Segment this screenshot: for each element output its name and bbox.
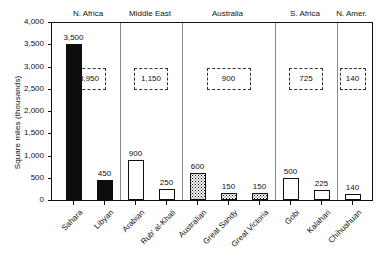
region-divider xyxy=(337,23,338,200)
y-tick-label: 2,500 xyxy=(16,85,44,93)
bar-value-label: 140 xyxy=(333,184,373,192)
x-tick-mark xyxy=(73,201,74,205)
region-total-australia: 900 xyxy=(207,68,251,90)
bar-sahara xyxy=(66,44,82,200)
x-tick-mark xyxy=(197,201,198,205)
region-total-n-amer: 140 xyxy=(340,68,366,90)
y-tick-label: 4,000 xyxy=(16,18,44,26)
bar-value-label: 600 xyxy=(178,163,218,171)
bar-rub-al-khali xyxy=(159,189,175,200)
y-tick-label: 1,500 xyxy=(16,129,44,137)
bar-kalahari xyxy=(314,190,330,200)
bar-great-victoria xyxy=(252,193,268,200)
x-tick-mark xyxy=(104,201,105,205)
y-tick-label: 500 xyxy=(16,174,44,182)
bar-value-label: 150 xyxy=(240,183,280,191)
bar-arabian xyxy=(128,160,144,200)
x-tick-mark xyxy=(259,201,260,205)
plot-area: 3,9501,1509007251403,5004509002506001501… xyxy=(51,22,373,201)
bar-value-label: 450 xyxy=(85,170,125,178)
y-tick-label: 3,000 xyxy=(16,63,44,71)
bar-libyan xyxy=(97,180,113,200)
bar-chihuahuan xyxy=(345,194,361,200)
bar-gobi xyxy=(283,178,299,200)
bar-value-label: 250 xyxy=(147,179,187,187)
bar-value-label: 900 xyxy=(116,150,156,158)
x-tick-mark xyxy=(135,201,136,205)
bar-australian xyxy=(190,173,206,200)
y-tick-label: 2,000 xyxy=(16,107,44,115)
y-tick-label: 0 xyxy=(16,196,44,204)
y-axis-tick-labels: 05001,0001,5002,0002,5003,0003,5004,000 xyxy=(14,0,44,258)
bar-value-label: 3,500 xyxy=(54,34,94,42)
region-divider xyxy=(182,23,183,200)
x-tick-mark xyxy=(166,201,167,205)
bar-chart: Square miles (thousands) 05001,0001,5002… xyxy=(0,0,377,258)
region-total-s-africa: 725 xyxy=(289,68,323,90)
bar-value-label: 500 xyxy=(271,168,311,176)
region-header-n-amer: N. Amer. xyxy=(302,9,377,18)
y-tick-label: 1,000 xyxy=(16,152,44,160)
plot-inner: 3,9501,1509007251403,5004509002506001501… xyxy=(52,23,372,200)
y-tick-label: 3,500 xyxy=(16,40,44,48)
bar-great-sandy xyxy=(221,193,237,200)
x-tick-mark xyxy=(290,201,291,205)
x-tick-mark xyxy=(352,201,353,205)
x-tick-mark xyxy=(228,201,229,205)
region-total-middle-east: 1,150 xyxy=(134,68,168,90)
x-tick-mark xyxy=(321,201,322,205)
